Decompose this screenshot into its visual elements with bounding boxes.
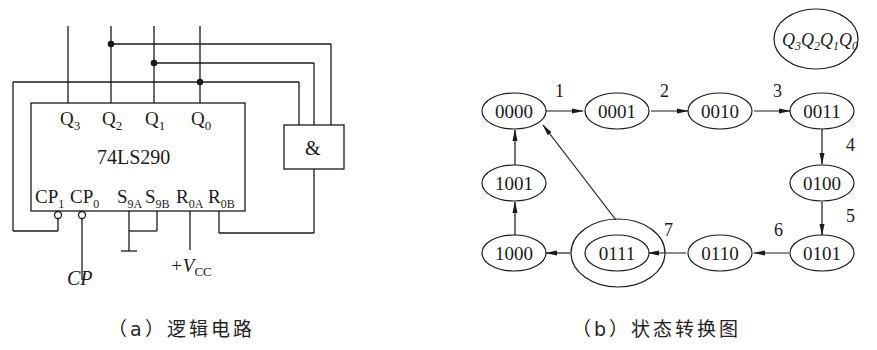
transition-label-2: 2	[660, 81, 669, 101]
state-label-1001: 1001	[495, 173, 533, 194]
state-label-1000: 1000	[495, 243, 533, 264]
caption-state-diagram: （b）状态转换图	[572, 314, 741, 341]
transition-label-4: 4	[846, 135, 855, 155]
figure-canvas: Q3 Q2 Q1 Q0 74LS290 CP1 CP0 S9A S9B R0A …	[0, 0, 877, 350]
input-cp0-label: CP0	[70, 186, 99, 211]
state-label-0100: 0100	[803, 173, 841, 194]
cp1-inversion-bubble	[55, 212, 62, 219]
state-label-0110: 0110	[701, 243, 738, 264]
cp0-inversion-bubble	[79, 212, 86, 219]
state-diagram: Q3Q2Q1Q0	[482, 9, 858, 287]
state-label-0001: 0001	[598, 101, 636, 122]
input-r0a-label: R0A	[176, 186, 204, 211]
state-label-0101: 0101	[803, 243, 841, 264]
transition-label-5: 5	[846, 206, 855, 226]
input-s9a-label: S9A	[117, 186, 143, 211]
caption-logic-circuit: （a）逻辑电路	[108, 314, 255, 341]
legend-label: Q3Q2Q1Q0	[782, 30, 858, 53]
clock-label: CP	[67, 267, 93, 289]
state-label-0011: 0011	[803, 101, 840, 122]
input-r0b-label: R0B	[208, 186, 235, 211]
output-q0-label: Q0	[191, 108, 211, 133]
transition-label-1: 1	[555, 81, 564, 101]
transition-label-6: 6	[774, 220, 783, 240]
state-label-0111: 0111	[599, 243, 636, 264]
output-q2-label: Q2	[102, 108, 122, 133]
input-cp1-label: CP1	[35, 186, 64, 211]
junction-dot-q0	[197, 79, 204, 86]
and-gate-symbol: &	[305, 137, 321, 159]
junction-dot-q1	[151, 60, 158, 67]
state-label-0010: 0010	[701, 101, 739, 122]
transition-label-7: 7	[664, 220, 673, 240]
transition-label-3: 3	[773, 81, 782, 101]
chip-name: 74LS290	[97, 146, 170, 168]
state-label-0000: 0000	[495, 101, 533, 122]
output-q1-label: Q1	[145, 108, 165, 133]
logic-circuit	[13, 26, 344, 280]
vcc-label: +VCC	[170, 255, 212, 279]
input-s9b-label: S9B	[145, 186, 170, 211]
junction-dot-q2	[108, 41, 115, 48]
output-q3-label: Q3	[60, 108, 80, 133]
